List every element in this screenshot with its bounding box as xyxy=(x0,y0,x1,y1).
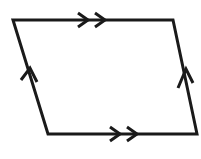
parallelogram-svg xyxy=(0,0,201,159)
geometry-figure-canvas xyxy=(0,0,201,159)
